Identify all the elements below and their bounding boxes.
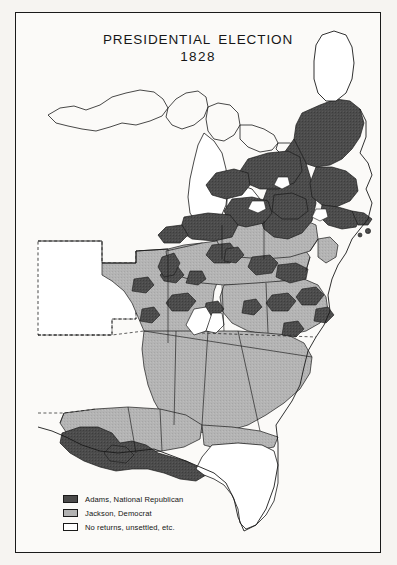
legend-item-jackson: Jackson, Democrat: [63, 506, 273, 520]
great-lakes-outlines: [48, 90, 308, 160]
legend-item-adams: Adams, National Republican: [63, 492, 273, 506]
adams-swatch: [63, 495, 78, 504]
election-map-page: PRESIDENTIAL ELECTION 1828: [0, 0, 397, 565]
jackson-swatch: [63, 509, 78, 518]
northern-maine: [314, 31, 354, 101]
legend-label-jackson: Jackson, Democrat: [85, 509, 152, 518]
us-county-map: [16, 13, 382, 554]
legend-item-no-returns: No returns, unsettled, etc.: [63, 520, 273, 534]
map-legend: Adams, National Republican Jackson, Demo…: [63, 492, 273, 534]
legend-label-no-returns: No returns, unsettled, etc.: [85, 523, 175, 532]
no-returns-swatch: [63, 523, 78, 532]
legend-label-adams: Adams, National Republican: [85, 495, 183, 504]
map-frame: PRESIDENTIAL ELECTION 1828: [15, 12, 381, 553]
